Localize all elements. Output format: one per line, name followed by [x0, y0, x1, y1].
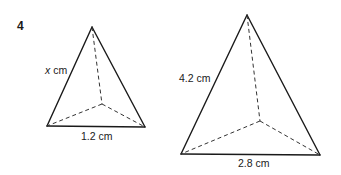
small-base-edge [47, 126, 145, 127]
question-number: 4 [17, 19, 24, 33]
large-left-edge [181, 15, 247, 154]
small-right-edge [92, 27, 145, 127]
small-pyramid: x cm 1.2 cm [44, 27, 145, 142]
large-slant-label: 4.2 cm [179, 72, 211, 84]
large-pyramid: 4.2 cm 2.8 cm [179, 15, 320, 169]
large-base-edge [181, 154, 320, 155]
small-slant-label: x cm [44, 64, 67, 76]
small-hidden-vertical-edge [92, 27, 102, 104]
similar-pyramids-diagram: 4 x cm 1.2 cm 4.2 cm 2.8 cm [0, 0, 341, 175]
small-base-label: 1.2 cm [81, 130, 113, 142]
small-left-edge [47, 27, 92, 126]
large-base-label: 2.8 cm [238, 157, 270, 169]
large-hidden-left-edge [181, 121, 260, 154]
small-slant-unit: cm [50, 64, 67, 76]
large-hidden-vertical-edge [247, 15, 260, 121]
large-right-edge [247, 15, 320, 155]
